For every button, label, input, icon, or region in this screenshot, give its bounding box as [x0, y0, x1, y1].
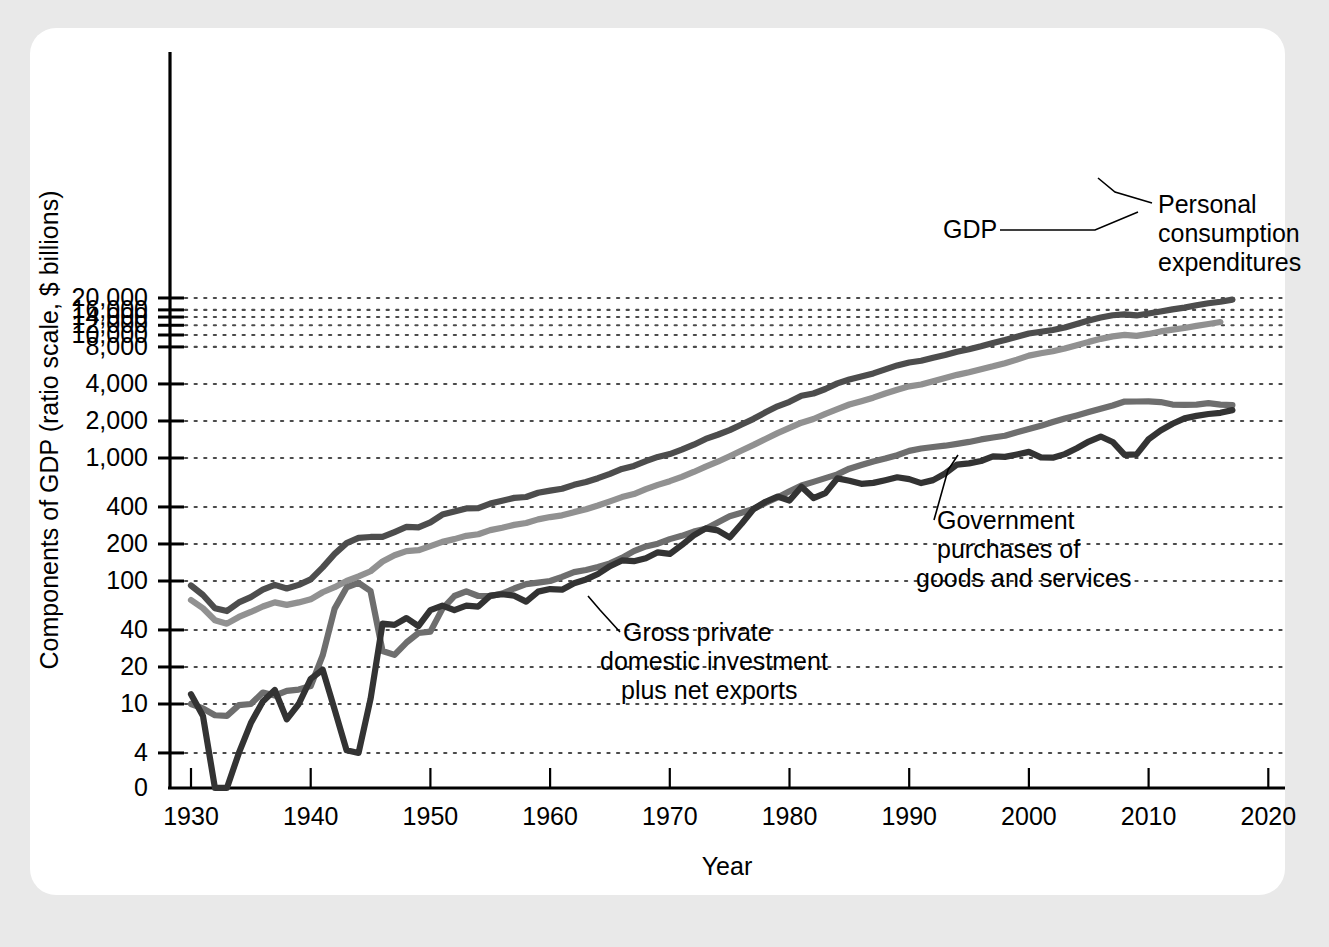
- y-tick-label: 100: [106, 566, 148, 594]
- y-tick-label: 2,000: [85, 406, 148, 434]
- x-tick-label: 1960: [522, 802, 578, 830]
- y-tick-label: 20: [120, 652, 148, 680]
- x-axis-title: Year: [702, 852, 753, 880]
- gdp-components-chart: 041020401002004001,0002,0004,0008,00010,…: [0, 0, 1329, 947]
- annotation-gdp: GDP: [943, 212, 1138, 243]
- annotation-government-line-2: purchases of: [937, 535, 1080, 563]
- annotation-gdp-line-1: GDP: [943, 215, 997, 243]
- annotation-investment-line-2: domestic investment: [600, 647, 828, 675]
- y-tick-label: 200: [106, 529, 148, 557]
- x-tick-label: 1980: [762, 802, 818, 830]
- x-tick-label: 1990: [881, 802, 937, 830]
- annotation-investment-line-1: Gross private: [623, 618, 772, 646]
- annotation-pce-line-1: Personal: [1158, 190, 1257, 218]
- y-tick-label: 1,000: [85, 443, 148, 471]
- annotation-government-line-3: goods and services: [916, 564, 1131, 592]
- y-tick-label: 0: [134, 773, 148, 801]
- y-tick-label: 400: [106, 492, 148, 520]
- x-tick-label: 1970: [642, 802, 698, 830]
- annotation-investment: Gross private domestic investment plus n…: [588, 596, 828, 704]
- annotation-pce-leader: [1098, 178, 1152, 203]
- y-tick-label-group: 041020401002004001,0002,0004,0008,00010,…: [72, 283, 149, 801]
- annotation-pce-line-2: consumption: [1158, 219, 1300, 247]
- annotation-gdp-leader: [1000, 212, 1138, 230]
- x-tick-label: 1950: [403, 802, 459, 830]
- annotation-pce-line-3: expenditures: [1158, 248, 1301, 276]
- annotation-government: Government purchases of goods and servic…: [916, 455, 1131, 592]
- x-tick-label: 2000: [1001, 802, 1057, 830]
- x-tick-label: 1930: [163, 802, 219, 830]
- x-tick-label: 2010: [1121, 802, 1177, 830]
- annotation-investment-leader: [588, 596, 620, 632]
- annotation-government-line-1: Government: [937, 506, 1075, 534]
- figure-page: 041020401002004001,0002,0004,0008,00010,…: [0, 0, 1329, 947]
- annotation-pce: Personal consumption expenditures: [1098, 178, 1301, 276]
- y-tick-label: 4,000: [85, 369, 148, 397]
- y-tick-label: 4: [134, 738, 148, 766]
- y-tick-label: 40: [120, 615, 148, 643]
- y-axis-title: Components of GDP (ratio scale, $ billio…: [35, 191, 63, 670]
- x-tick-label: 1940: [283, 802, 339, 830]
- y-tick-label: 10: [120, 689, 148, 717]
- annotation-investment-line-3: plus net exports: [621, 676, 798, 704]
- y-tick-label: 20,000: [72, 283, 148, 311]
- x-tick-label: 2020: [1240, 802, 1296, 830]
- x-tick-label-group: 1930194019501960197019801990200020102020: [163, 802, 1296, 830]
- x-tick-group: [191, 768, 1268, 788]
